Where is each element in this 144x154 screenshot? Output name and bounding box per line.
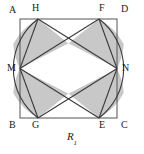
- vertex-label-F: F: [99, 3, 105, 13]
- vertex-label-A: A: [9, 5, 16, 15]
- caption-base: R: [67, 130, 74, 142]
- figure-caption: R1: [0, 130, 144, 147]
- vertex-label-G: G: [32, 120, 39, 130]
- vertex-label-D: D: [121, 4, 128, 14]
- vertex-label-E: E: [99, 120, 105, 130]
- caption-subscript: 1: [74, 139, 78, 147]
- vertex-label-B: B: [9, 120, 16, 130]
- geometry-figure-container: A H F D M N B G E C R1: [0, 0, 144, 154]
- vertex-label-M: M: [7, 63, 16, 73]
- vertex-label-C: C: [121, 120, 128, 130]
- vertex-label-N: N: [122, 63, 129, 73]
- vertex-label-H: H: [32, 3, 39, 13]
